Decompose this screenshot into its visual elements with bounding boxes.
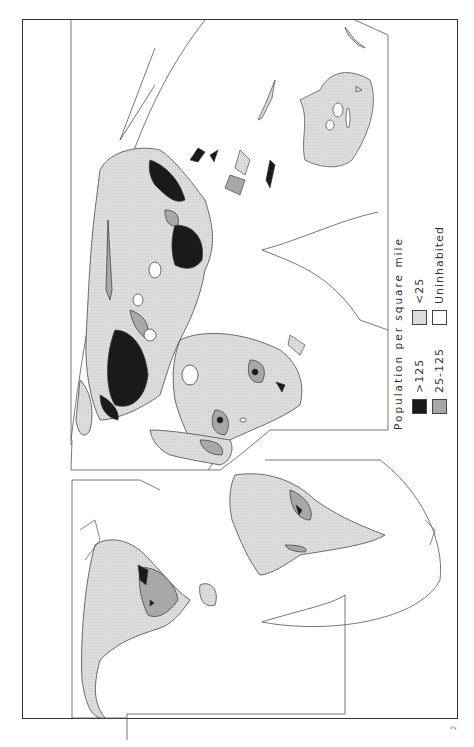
region-southeast-asia: [190, 148, 275, 195]
page-mark: 2: [450, 726, 458, 730]
population-density-map: [0, 0, 474, 747]
region-north-america: [82, 540, 217, 718]
region-madagascar: [288, 335, 305, 355]
region-south-america: [230, 474, 385, 575]
region-australia: [258, 27, 373, 167]
